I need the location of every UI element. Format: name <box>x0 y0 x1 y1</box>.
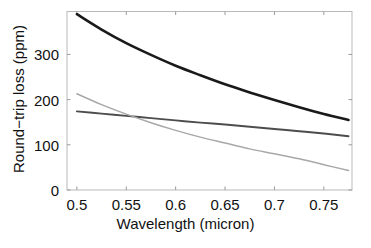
x-tick-label: 0.55 <box>112 196 141 213</box>
y-axis-label: Round−trip loss (ppm) <box>10 25 27 173</box>
x-tick-label: 0.6 <box>165 196 186 213</box>
axes-frame <box>67 12 352 191</box>
data-series <box>77 14 349 170</box>
x-tick-label: 0.75 <box>309 196 338 213</box>
y-axis-label-container: Round−trip loss (ppm) <box>10 0 32 204</box>
x-axis-label: Wavelength (micron) <box>0 215 371 232</box>
chart-figure: 0100200300 0.50.550.60.650.70.75 Wavelen… <box>0 0 371 248</box>
axis-ticks <box>67 12 352 191</box>
x-tick-label: 0.65 <box>210 196 239 213</box>
series-line-middle-curve <box>77 111 349 136</box>
x-tick-label: 0.7 <box>264 196 285 213</box>
x-tick-label: 0.5 <box>66 196 87 213</box>
series-line-upper-curve <box>77 14 349 120</box>
